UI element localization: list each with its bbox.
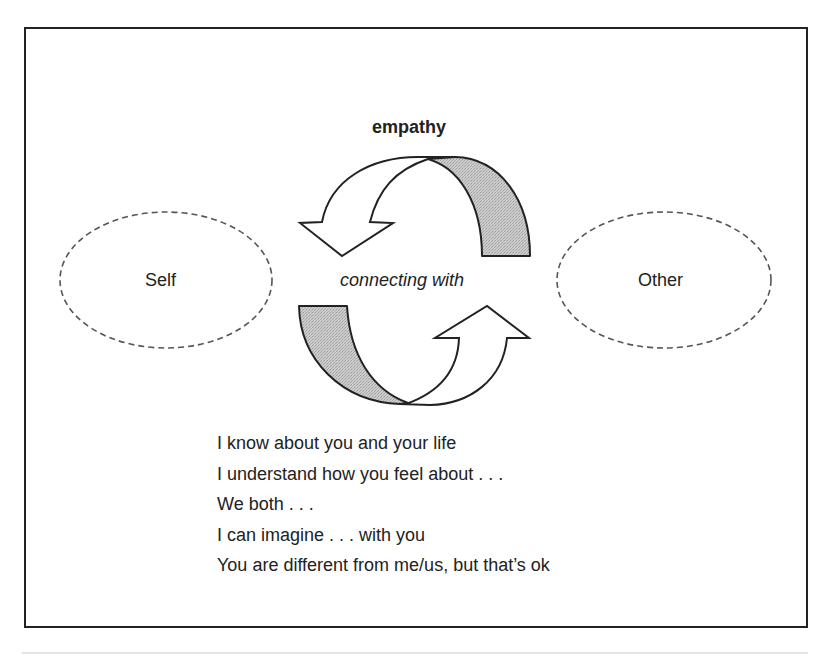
bottom-arrow-shaded-band <box>299 306 408 404</box>
statement-item: We both . . . <box>217 489 550 520</box>
center-label: connecting with <box>340 269 464 291</box>
diagram-title: empathy <box>372 116 446 138</box>
statement-item: I understand how you feel about . . . <box>217 459 550 490</box>
top-arrow-shaded-band <box>418 157 530 256</box>
statement-item: I know about you and your life <box>217 428 550 459</box>
self-node-label: Self <box>145 269 176 291</box>
curved-arrow-left-down-icon <box>300 157 530 256</box>
bottom-arrow-white-shaft <box>400 306 529 405</box>
top-arrow-white-shaft <box>300 157 455 256</box>
statement-item: I can imagine . . . with you <box>217 520 550 551</box>
curved-arrow-right-up-icon <box>299 306 529 405</box>
other-node-label: Other <box>638 269 683 291</box>
empathy-statements-list: I know about you and your life I underst… <box>217 428 550 581</box>
statement-item: You are different from me/us, but that’s… <box>217 550 550 581</box>
